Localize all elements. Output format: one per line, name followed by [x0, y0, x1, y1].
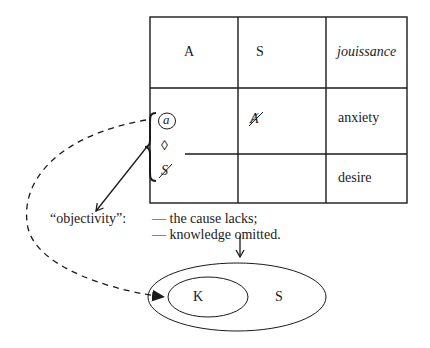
ellipse-label-K: K: [193, 289, 203, 305]
ellipse-label-S: S: [275, 289, 283, 305]
cell-A: A: [184, 44, 194, 60]
barred-s-letter: S: [161, 163, 168, 179]
lozenge-symbol: ◊: [161, 138, 168, 154]
note-knowledge-omitted: — knowledge omitted.: [152, 227, 281, 243]
outer-ellipse-S: [148, 263, 326, 331]
objectivity-label: “objectivity”:: [50, 211, 126, 227]
circled-a-letter: a: [163, 112, 170, 128]
cell-barred-A: Ⱥ: [250, 111, 259, 127]
cell-jouissance: jouissance: [337, 44, 396, 60]
inner-ellipse-K: [168, 277, 248, 317]
cell-desire: desire: [338, 170, 371, 186]
cell-anxiety: anxiety: [338, 110, 379, 126]
cell-S: S: [256, 44, 264, 60]
dashed-arrow-to-K: [27, 120, 164, 297]
note-cause-lacks: — the cause lacks;: [152, 211, 257, 227]
diagram-canvas: A S jouissance a ◊ S Ⱥ anxiety desire “o…: [0, 0, 430, 348]
arrow-to-objectivity: [96, 148, 146, 211]
